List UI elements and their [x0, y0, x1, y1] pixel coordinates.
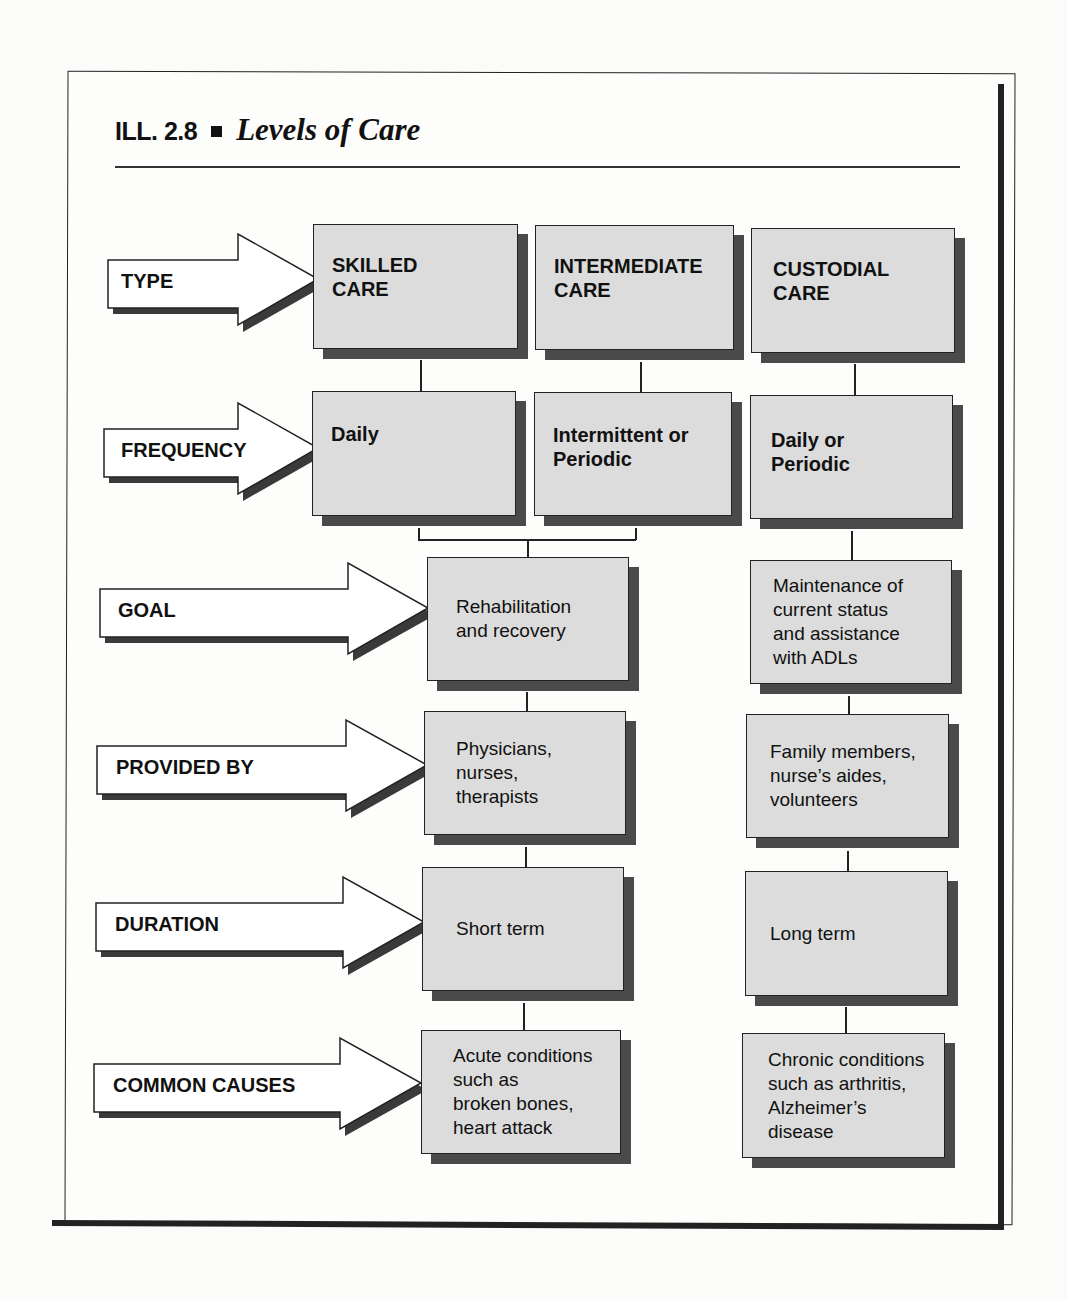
connector-line — [848, 696, 850, 714]
title-divider — [115, 166, 960, 168]
box-text-line: Chronic conditions — [768, 1048, 926, 1072]
box-text-line: heart attack — [453, 1116, 602, 1140]
box-text-line: such as — [453, 1068, 602, 1092]
box-text-line: volunteers — [770, 788, 930, 812]
box-text-line: and assistance — [773, 622, 933, 646]
connector-line — [640, 362, 642, 392]
box-frequency-intermediate: Intermittent or Periodic — [534, 392, 732, 516]
figure-number: ILL. 2.8 — [115, 117, 197, 146]
connector-line — [851, 531, 853, 560]
box-text-line: CARE — [773, 281, 936, 305]
box-skilled-care: SKILLED CARE — [313, 224, 518, 349]
box-text-line: Periodic — [553, 447, 713, 471]
box-provided-by-skilled-intermediate: Physicians, nurses, therapists — [424, 711, 626, 835]
box-text-line: current status — [773, 598, 933, 622]
figure-name: Levels of Care — [236, 112, 420, 148]
box-text-line: Maintenance of — [773, 574, 933, 598]
box-text-line: with ADLs — [773, 646, 933, 670]
box-text-line: nurses, — [456, 761, 607, 785]
box-frequency-skilled: Daily — [312, 391, 516, 516]
box-goal-custodial: Maintenance of current status and assist… — [750, 560, 952, 684]
box-text-line: INTERMEDIATE — [554, 254, 715, 278]
box-intermediate-care: INTERMEDIATE CARE — [535, 225, 734, 350]
box-duration-custodial: Long term — [745, 871, 948, 996]
box-text-line: CARE — [332, 277, 499, 301]
row-label: TYPE — [121, 270, 173, 293]
box-text-line: Rehabilitation — [456, 595, 610, 619]
connector-line — [527, 540, 529, 557]
box-text-line: disease — [768, 1120, 926, 1144]
box-frequency-custodial: Daily or Periodic — [750, 395, 953, 519]
connector-line — [523, 1003, 525, 1031]
box-goal-skilled-intermediate: Rehabilitation and recovery — [427, 557, 629, 681]
box-common-causes-skilled-intermediate: Acute conditions such as broken bones, h… — [421, 1030, 621, 1154]
box-text-line: Physicians, — [456, 737, 607, 761]
connector-line — [420, 360, 422, 392]
row-label: GOAL — [118, 599, 176, 622]
box-text-line: Daily — [331, 422, 497, 446]
row-label: DURATION — [115, 913, 219, 936]
box-text-line: Family members, — [770, 740, 930, 764]
row-label: PROVIDED BY — [116, 756, 254, 779]
figure-title: ILL. 2.8 Levels of Care — [115, 112, 420, 148]
frame-shadow — [998, 84, 1004, 1230]
box-custodial-care: CUSTODIAL CARE — [751, 228, 955, 353]
box-provided-by-custodial: Family members, nurse’s aides, volunteer… — [746, 714, 949, 838]
box-text-line: Short term — [456, 917, 605, 941]
row-label: FREQUENCY — [121, 439, 247, 462]
box-text-line: such as arthritis, — [768, 1072, 926, 1096]
box-text-line: CUSTODIAL — [773, 257, 936, 281]
box-text-line: Daily or — [771, 428, 934, 452]
box-text-line: Acute conditions — [453, 1044, 602, 1068]
connector-line — [526, 692, 528, 711]
connector-line — [854, 364, 856, 396]
box-text-line: Intermittent or — [553, 423, 713, 447]
box-common-causes-custodial: Chronic conditions such as arthritis, Al… — [742, 1033, 945, 1158]
box-text-line: nurse’s aides, — [770, 764, 930, 788]
box-text-line: Long term — [770, 922, 929, 946]
connector-line — [525, 847, 527, 868]
box-text-line: CARE — [554, 278, 715, 302]
box-text-line: Periodic — [771, 452, 934, 476]
box-text-line: therapists — [456, 785, 607, 809]
box-duration-skilled-intermediate: Short term — [422, 867, 624, 991]
box-text-line: broken bones, — [453, 1092, 602, 1116]
box-text-line: Alzheimer’s — [768, 1096, 926, 1120]
box-text-line: and recovery — [456, 619, 610, 643]
connector-line — [845, 1007, 847, 1034]
row-label: COMMON CAUSES — [113, 1074, 295, 1097]
connector-line — [847, 851, 849, 872]
box-text-line: SKILLED — [332, 253, 499, 277]
bullet-square-icon — [211, 126, 222, 137]
